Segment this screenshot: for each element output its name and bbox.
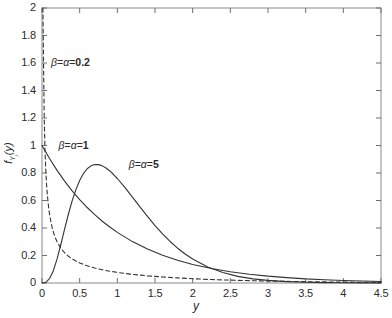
x-tick-label: 4.5: [361, 287, 392, 299]
x-tick-label: 1.5: [135, 287, 175, 299]
x-tick-label: 3.5: [286, 287, 326, 299]
x-tick-label: 1: [97, 287, 137, 299]
y-tick-label: 0.6: [0, 194, 36, 206]
x-tick-label: 0.5: [60, 287, 100, 299]
plot-frame: [42, 8, 381, 283]
y-tick-label: 1: [0, 139, 36, 151]
x-tick-label: 0: [22, 287, 62, 299]
y-tick-label: 1.6: [0, 56, 36, 68]
x-tick-label: 2.5: [210, 287, 250, 299]
curve-label-1: β=α=1: [59, 139, 89, 151]
y-tick-label: 2: [0, 1, 36, 13]
y-tick-label: 0.4: [0, 221, 36, 233]
x-tick-label: 2: [173, 287, 213, 299]
curve-label-0.2: β=α=0.2: [51, 56, 90, 68]
curve-label-5: β=α=5: [129, 158, 159, 170]
y-tick-label: 1.2: [0, 111, 36, 123]
y-tick-label: 0.2: [0, 249, 36, 261]
y-tick-label: 1.8: [0, 29, 36, 41]
y-tick-label: 0.8: [0, 166, 36, 178]
y-tick-label: 1.4: [0, 84, 36, 96]
x-axis-label: y: [0, 299, 392, 313]
x-tick-label: 3: [248, 287, 288, 299]
gamma-density-chart: [0, 0, 392, 318]
x-tick-label: 4: [323, 287, 363, 299]
y-tick-label: 0: [0, 276, 36, 288]
